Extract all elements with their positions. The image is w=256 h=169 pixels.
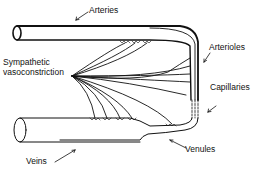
arterioles-label: Arterioles: [209, 42, 245, 52]
capillaries-label: Capillaries: [210, 82, 250, 92]
nerve-terminals: [90, 41, 176, 126]
vein-tube: [14, 118, 140, 142]
capillaries: [192, 100, 198, 118]
venule-tube: [20, 118, 198, 140]
sympathetic-label-line2: vasoconstriction: [3, 67, 64, 77]
venules-arrow: [170, 140, 186, 148]
capillaries-arrow: [208, 106, 216, 112]
sympathetic-nerves: [72, 43, 190, 124]
venules-label: Venules: [185, 144, 215, 154]
vascular-diagram: Arteries Arterioles Sympathetic vasocons…: [0, 0, 256, 169]
sympathetic-label-line1: Sympathetic: [3, 57, 50, 67]
veins-arrow: [55, 150, 75, 162]
veins-label: Veins: [26, 156, 47, 166]
arteries-arrow: [76, 12, 88, 20]
arteries-label: Arteries: [89, 5, 118, 15]
arterioles-arrow: [204, 53, 210, 62]
